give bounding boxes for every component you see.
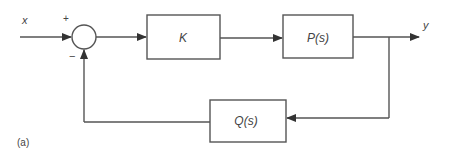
controller-label: K	[179, 31, 188, 45]
diagram-svg: x + − K P(s) y Q(s) (a)	[0, 0, 449, 156]
plus-sign: +	[63, 13, 69, 24]
summing-junction	[72, 25, 96, 49]
output-label: y	[422, 19, 430, 31]
input-label: x	[21, 14, 28, 26]
minus-sign: −	[69, 50, 75, 62]
caption: (a)	[17, 137, 29, 148]
block-diagram: x + − K P(s) y Q(s) (a)	[0, 0, 449, 156]
feedback-label: Q(s)	[234, 114, 257, 128]
plant-label: P(s)	[307, 31, 329, 45]
